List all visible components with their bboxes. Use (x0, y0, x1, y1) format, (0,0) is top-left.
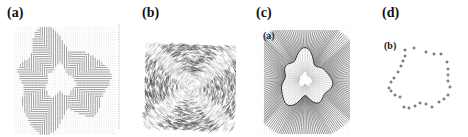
vector-field-plot (0, 0, 120, 137)
panel-c: (c) (a) (230, 0, 350, 137)
texture-plot (118, 0, 236, 137)
cross-marker-contour (345, 0, 468, 137)
panel-a: (a) (0, 0, 120, 137)
panel-d: (d) (b) (345, 0, 468, 137)
panel-b: (b) (118, 0, 236, 137)
streamline-plot (230, 0, 350, 137)
